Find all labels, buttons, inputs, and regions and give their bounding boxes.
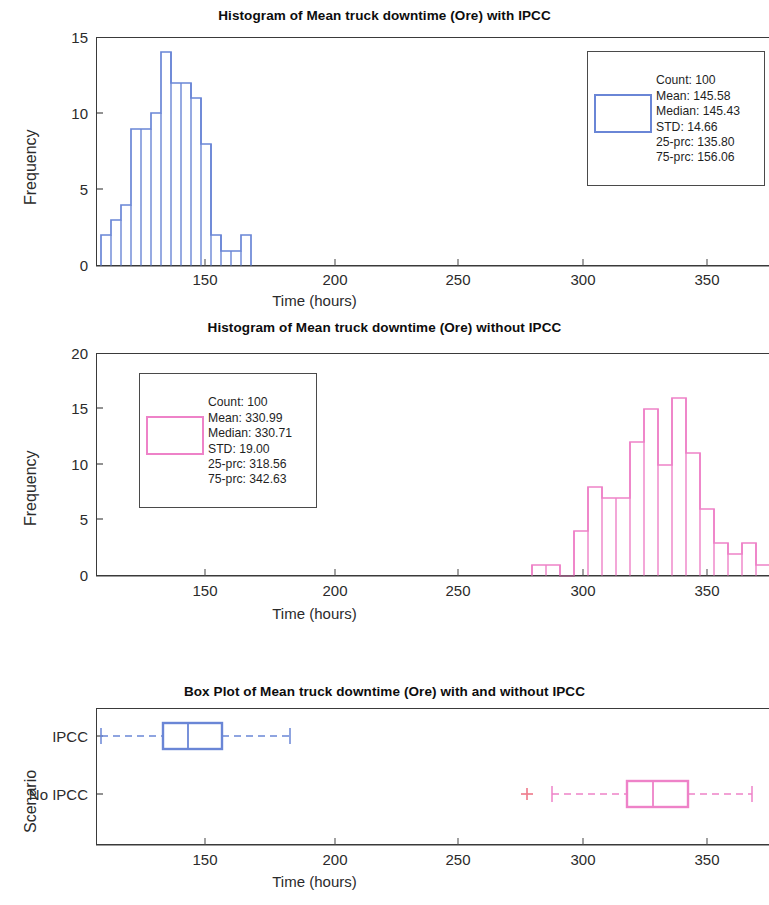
hist-no-ipcc-xtick-250: 250 [445, 582, 470, 599]
figure-page: Histogram of Mean truck downtime (Ore) w… [0, 0, 769, 905]
legend-median: Median: 330.71 [208, 426, 316, 441]
hist-ipcc-legend-text: Count: 100 Mean: 145.58 Median: 145.43 S… [656, 60, 764, 179]
boxplot-xtick-250: 250 [445, 851, 470, 868]
legend-p25: 25-prc: 318.56 [208, 457, 316, 472]
boxplot-graphics [0, 668, 769, 905]
hist-no-ipcc-graphics [0, 318, 769, 638]
hist-no-ipcc-legend-swatch [146, 416, 204, 455]
hist-no-ipcc-legend: Count: 100 Mean: 330.99 Median: 330.71 S… [139, 373, 317, 508]
legend-median: Median: 145.43 [656, 104, 764, 119]
boxplot-series-ipcc [101, 723, 290, 749]
legend-std: STD: 14.66 [656, 120, 764, 135]
hist-no-ipcc-xlabel: Time (hours) [0, 605, 699, 622]
boxplot-xtick-350: 350 [694, 851, 719, 868]
hist-ipcc-xtick-300: 300 [570, 271, 595, 288]
legend-std: STD: 19.00 [208, 442, 316, 457]
hist-ipcc-xtick-250: 250 [445, 271, 470, 288]
hist-ipcc-xlabel: Time (hours) [0, 292, 699, 309]
legend-p75: 75-prc: 156.06 [656, 150, 764, 165]
hist-ipcc-legend-swatch [594, 94, 652, 133]
legend-mean: Mean: 330.99 [208, 411, 316, 426]
boxplot-series-no-ipcc [521, 781, 752, 807]
boxplot-outlier-marker [521, 788, 533, 800]
panel-hist-ipcc: Histogram of Mean truck downtime (Ore) w… [0, 0, 769, 310]
panel-boxplot: Box Plot of Mean truck downtime (Ore) wi… [0, 668, 769, 905]
hist-no-ipcc-xtick-350: 350 [694, 582, 719, 599]
legend-mean: Mean: 145.58 [656, 89, 764, 104]
boxplot-xtick-150: 150 [192, 851, 217, 868]
hist-ipcc-xtick-350: 350 [694, 271, 719, 288]
boxplot-xtick-300: 300 [570, 851, 595, 868]
hist-ipcc-legend: Count: 100 Mean: 145.58 Median: 145.43 S… [587, 51, 765, 186]
legend-p25: 25-prc: 135.80 [656, 135, 764, 150]
legend-count: Count: 100 [656, 73, 764, 88]
panel-hist-no-ipcc: Histogram of Mean truck downtime (Ore) w… [0, 318, 769, 638]
hist-no-ipcc-xtick-300: 300 [570, 582, 595, 599]
boxplot-xtick-200: 200 [322, 851, 347, 868]
legend-p75: 75-prc: 342.63 [208, 472, 316, 487]
hist-ipcc-xtick-150: 150 [192, 271, 217, 288]
hist-ipcc-xtick-200: 200 [322, 271, 347, 288]
legend-count: Count: 100 [208, 395, 316, 410]
boxplot-xlabel: Time (hours) [0, 873, 699, 890]
hist-no-ipcc-legend-text: Count: 100 Mean: 330.99 Median: 330.71 S… [208, 382, 316, 501]
hist-no-ipcc-xtick-150: 150 [192, 582, 217, 599]
hist-no-ipcc-xtick-200: 200 [322, 582, 347, 599]
